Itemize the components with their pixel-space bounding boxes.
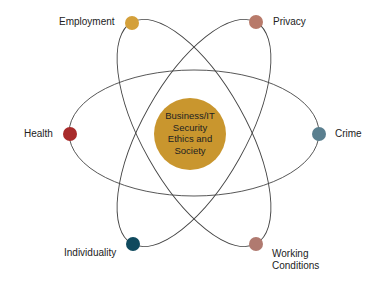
label-individuality: Individuality xyxy=(64,247,116,259)
center-line: Security xyxy=(154,122,226,134)
node-crime xyxy=(312,127,326,141)
label-working-conditions: Working Conditions xyxy=(272,248,319,272)
center-label: Business/IT Security Ethics and Society xyxy=(154,110,226,156)
label-line: Conditions xyxy=(272,260,319,272)
label-privacy: Privacy xyxy=(273,16,306,28)
label-employment: Employment xyxy=(59,16,115,28)
node-working-conditions xyxy=(249,237,263,251)
center-line: Business/IT xyxy=(154,110,226,122)
node-individuality xyxy=(126,237,140,251)
node-health xyxy=(63,127,77,141)
center-line: Society xyxy=(154,145,226,157)
center-line: Ethics and xyxy=(154,133,226,145)
node-privacy xyxy=(249,15,263,29)
label-line: Working xyxy=(272,248,319,260)
label-crime: Crime xyxy=(335,128,362,140)
label-health: Health xyxy=(24,128,53,140)
node-employment xyxy=(125,16,139,30)
